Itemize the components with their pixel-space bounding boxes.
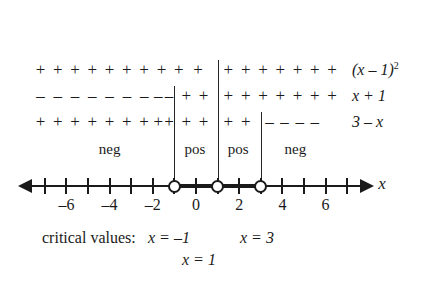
axis-tick — [130, 178, 132, 194]
sign-glyph: + — [308, 86, 322, 106]
sign-glyph: – — [308, 112, 322, 132]
sign-glyph: + — [291, 60, 305, 80]
sign-glyph: + — [51, 112, 65, 132]
sign-glyph: + — [85, 112, 99, 132]
sign-glyph: – — [278, 112, 292, 132]
axis-tick — [44, 178, 46, 194]
sign-glyph: + — [273, 86, 287, 106]
axis-arrow-left — [18, 179, 32, 193]
sign-glyph: + — [179, 112, 193, 132]
axis-tick — [109, 178, 111, 194]
sign-glyph: – — [103, 86, 117, 106]
axis-arrow-right — [360, 179, 374, 193]
sign-glyph: + — [137, 112, 151, 132]
sign-glyph: + — [239, 60, 253, 80]
sign-glyph: – — [120, 86, 134, 106]
sign-glyph: – — [262, 112, 276, 132]
factor-label-x-minus-1-squared: (x – 1)2 — [352, 60, 399, 80]
sign-glyph: + — [221, 112, 235, 132]
divider-at-neg-1 — [174, 86, 175, 186]
sign-glyph: + — [179, 86, 193, 106]
factor-label-3-minus-x: 3 – x — [352, 112, 383, 132]
sign-glyph: + — [68, 60, 82, 80]
axis-tick — [87, 178, 89, 194]
interval-label-neg-left: neg — [85, 140, 135, 158]
open-circle-point — [168, 180, 181, 193]
sign-glyph: + — [120, 60, 134, 80]
sign-glyph: + — [197, 112, 211, 132]
sign-glyph: + — [221, 86, 235, 106]
axis-tick-label: 2 — [224, 196, 254, 214]
sign-glyph: + — [33, 112, 47, 132]
sign-glyph: + — [33, 60, 47, 80]
critical-value-neg-1: x = –1 — [148, 228, 190, 248]
sign-glyph: – — [33, 86, 47, 106]
sign-glyph: + — [239, 112, 253, 132]
sign-glyph: + — [85, 60, 99, 80]
axis-tick — [346, 178, 348, 194]
sign-glyph: + — [154, 60, 168, 80]
sign-glyph: + — [256, 86, 270, 106]
axis-tick — [281, 178, 283, 194]
interval-label-pos-2: pos — [213, 140, 263, 158]
sign-glyph: – — [51, 86, 65, 106]
sign-glyph: + — [51, 60, 65, 80]
critical-value-3: x = 3 — [240, 228, 274, 248]
axis-tick — [325, 178, 327, 194]
open-circle-point — [254, 180, 267, 193]
critical-values-prefix: critical values: — [42, 228, 136, 248]
axis-tick — [238, 178, 240, 194]
axis-tick-label: 0 — [181, 196, 211, 214]
axis-variable-label: x — [378, 174, 386, 194]
sign-glyph: + — [325, 60, 339, 80]
sign-glyph: + — [325, 86, 339, 106]
sign-chart-figure: +++++++++++++++++–––––––––++++++++++++++… — [0, 0, 426, 282]
sign-glyph: + — [308, 60, 322, 80]
axis-tick-label: –2 — [138, 196, 168, 214]
critical-value-1: x = 1 — [182, 250, 216, 270]
axis-tick — [195, 178, 197, 194]
sign-glyph: + — [191, 60, 205, 80]
open-circle-point — [211, 180, 224, 193]
sign-glyph: + — [120, 112, 134, 132]
sign-glyph: – — [68, 86, 82, 106]
axis-tick-label: 4 — [267, 196, 297, 214]
factor-base: (x – 1) — [352, 61, 394, 78]
interval-label-neg-right: neg — [270, 140, 320, 158]
sign-glyph: + — [103, 60, 117, 80]
sign-glyph: + — [221, 60, 235, 80]
axis-tick-label: –6 — [51, 196, 81, 214]
axis-tick-label: 6 — [311, 196, 341, 214]
axis-tick — [65, 178, 67, 194]
sign-glyph: – — [137, 86, 151, 106]
sign-glyph: + — [256, 60, 270, 80]
sign-glyph: + — [103, 112, 117, 132]
sign-glyph: + — [291, 86, 305, 106]
factor-label-x-plus-1: x + 1 — [352, 86, 386, 106]
sign-glyph: + — [137, 60, 151, 80]
axis-tick-label: –4 — [95, 196, 125, 214]
sign-glyph: + — [172, 60, 186, 80]
factor-exponent: 2 — [394, 60, 399, 71]
axis-tick — [303, 178, 305, 194]
sign-glyph: + — [273, 60, 287, 80]
sign-glyph: + — [197, 86, 211, 106]
divider-at-1 — [218, 60, 219, 186]
sign-glyph: + — [68, 112, 82, 132]
sign-glyph: + — [239, 86, 253, 106]
sign-glyph: – — [85, 86, 99, 106]
sign-glyph: – — [293, 112, 307, 132]
axis-tick — [152, 178, 154, 194]
